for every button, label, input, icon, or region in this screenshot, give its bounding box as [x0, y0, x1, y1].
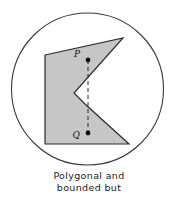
figure-container: P Q Polygonal and bounded but — [0, 0, 178, 198]
point-q-dot — [86, 131, 91, 136]
point-p-label: P — [73, 49, 81, 59]
point-p-dot — [86, 58, 91, 63]
figure-caption: Polygonal and bounded but — [0, 170, 178, 194]
geometry-diagram: P Q — [0, 0, 178, 178]
caption-line-2: bounded but — [0, 182, 178, 194]
point-q-label: Q — [73, 130, 81, 140]
caption-line-1: Polygonal and — [0, 170, 178, 182]
